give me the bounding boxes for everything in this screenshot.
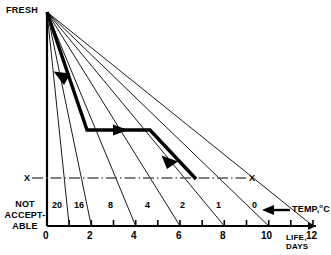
axis-label-not-acceptable: NOT ACCEPT- ABLE — [3, 199, 47, 232]
path-arrowhead-2 — [113, 125, 128, 136]
temp-label-8: 8 — [108, 200, 113, 210]
shelf-life-lines — [47, 12, 313, 226]
temp-label-20: 20 — [52, 200, 62, 210]
not-acceptable-line-1: NOT — [3, 199, 47, 210]
x-tick-label-6: 6 — [176, 230, 182, 241]
shelf-life-line-8c — [47, 12, 136, 226]
temp-label-2: 2 — [180, 200, 185, 210]
x-tick-label-4: 4 — [131, 230, 137, 241]
shelf-life-line-1c — [47, 12, 269, 226]
limit-label-right: X — [249, 173, 255, 183]
temp-axis-label: TEMP,oC — [292, 203, 330, 214]
x-tick-label-0: 0 — [43, 230, 49, 241]
temp-axis-unit: C — [323, 204, 330, 214]
limit-label-left: X — [24, 173, 30, 183]
axis-label-fresh: FRESH — [6, 5, 38, 15]
shelf-life-line-4c — [47, 12, 180, 226]
x-tick-label-2: 2 — [87, 230, 93, 241]
temp-label-16: 16 — [74, 200, 84, 210]
temp-label-1: 1 — [216, 200, 221, 210]
temp-label-0: 0 — [252, 200, 257, 210]
shelf-life-line-0c — [47, 12, 313, 226]
shelf-life-line-2c — [47, 12, 224, 226]
temp-axis-arrow — [262, 205, 290, 215]
temp-label-4: 4 — [145, 200, 150, 210]
not-acceptable-line-2: ACCEPT- — [3, 210, 47, 221]
shelf-life-chart: FRESH NOT ACCEPT- ABLE X X 20 16 8 4 2 1… — [0, 0, 331, 255]
chart-canvas — [0, 0, 331, 255]
x-tick-label-10: 10 — [261, 230, 272, 241]
quality-path — [47, 12, 196, 179]
not-acceptable-line-3: ABLE — [3, 221, 47, 232]
x-axis-title: LIFE, DAYS — [286, 233, 331, 251]
temp-axis-label-text: TEMP, — [292, 204, 319, 214]
x-tick-label-8: 8 — [220, 230, 226, 241]
